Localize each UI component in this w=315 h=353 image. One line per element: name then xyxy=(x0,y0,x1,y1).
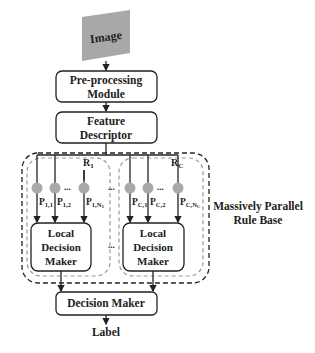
feature-line2: Descriptor xyxy=(80,129,132,142)
predicate-c-2-label: PC,2 xyxy=(150,197,165,208)
ldm1-line1: Local xyxy=(48,227,74,239)
predicate-c-1-label: PC,1 xyxy=(132,197,147,208)
ldmc-line3: Maker xyxy=(137,255,169,267)
input-image-node: Image xyxy=(82,10,130,61)
feature-line1: Feature xyxy=(87,115,125,127)
ellipsis-mid: ... xyxy=(108,182,115,192)
predicate-node xyxy=(32,183,43,194)
diagram-canvas: Image Pre-processing Module Feature Desc… xyxy=(0,0,315,353)
rule-1-label: R1 xyxy=(83,157,94,170)
predicate-node xyxy=(50,183,61,194)
ellipsis: ... xyxy=(64,182,71,192)
predicate-node xyxy=(173,183,184,194)
decision-maker-label: Decision Maker xyxy=(67,297,145,309)
predicate-node xyxy=(125,183,136,194)
preprocessing-line2: Module xyxy=(87,88,125,100)
rule-base-label-line1: Massively Parallel xyxy=(213,200,303,213)
predicate-c-n-label: PC,NC xyxy=(180,197,201,209)
predicate-node xyxy=(143,183,154,194)
preprocessing-line1: Pre-processing xyxy=(70,74,143,87)
rule-group-1: ... P1,1 P1,2 P1,N1 Local Decision Maker xyxy=(31,155,104,271)
feature-descriptor-box: Feature Descriptor xyxy=(56,112,157,143)
decision-maker-box: Decision Maker xyxy=(56,292,157,315)
ldmc-line2: Decision xyxy=(133,241,173,253)
rule-group-c: ... PC,1 PC,2 PC,NC Local Decision Maker xyxy=(123,155,201,271)
ldm1-line2: Decision xyxy=(41,241,81,253)
ldmc-line1: Local xyxy=(140,227,166,239)
ldm1-line3: Maker xyxy=(45,255,77,267)
output-label: Label xyxy=(92,326,120,338)
ellipsis: ... xyxy=(157,182,164,192)
ellipsis-mid2: ... xyxy=(108,240,115,250)
predicate-1-1-label: P1,1 xyxy=(39,197,53,208)
rule-base-label-line2: Rule Base xyxy=(234,214,283,226)
predicate-1-2-label: P1,2 xyxy=(57,197,71,208)
rule-c-label: RC xyxy=(171,157,183,170)
preprocessing-module-box: Pre-processing Module xyxy=(56,71,157,102)
predicate-node xyxy=(79,183,90,194)
predicate-1-n-label: P1,N1 xyxy=(86,197,104,209)
